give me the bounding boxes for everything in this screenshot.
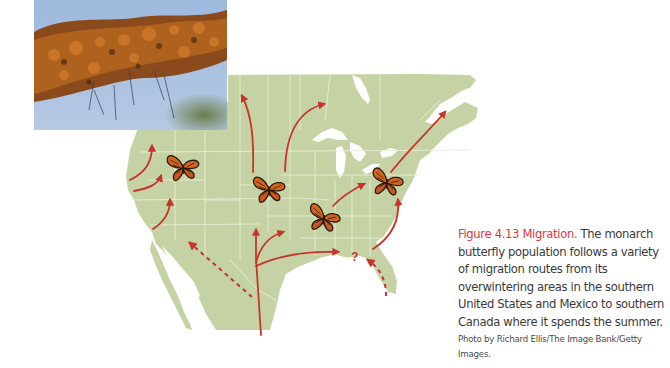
figure-label: Figure 4.13 Migration.	[458, 227, 577, 241]
caption-body: The monarch butterfly population follows…	[458, 227, 664, 329]
figure-caption: Figure 4.13 Migration. The monarch butte…	[458, 226, 668, 362]
monarch-cluster-photo	[34, 0, 227, 130]
photo-credit: Photo by Richard Ellis/The Image Bank/Ge…	[458, 332, 668, 362]
question-mark: ?	[351, 250, 358, 264]
figure: ?	[0, 0, 670, 368]
